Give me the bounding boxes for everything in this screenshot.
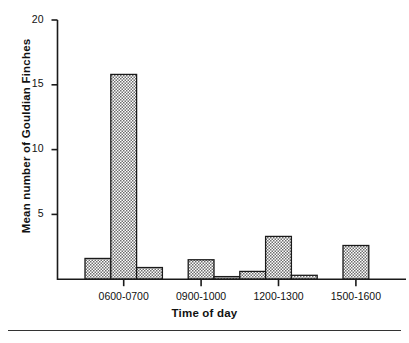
y-tick-label: 5 — [18, 207, 44, 219]
footer-rule — [8, 330, 401, 331]
bars-group — [85, 74, 369, 279]
x-tick-label: 1500-1600 — [331, 290, 381, 302]
axis-lines — [58, 20, 407, 280]
bar — [240, 271, 266, 279]
y-tick-label: 20 — [18, 13, 44, 25]
x-tick-label: 0900-1000 — [176, 290, 226, 302]
x-axis-title: Time of day — [0, 307, 409, 319]
x-tick-label: 0600-0700 — [99, 290, 149, 302]
x-axis-ticks — [124, 279, 356, 286]
bar — [85, 258, 111, 279]
y-tick-label: 10 — [18, 142, 44, 154]
y-axis-title: Mean number of Gouldian Finches — [20, 6, 32, 266]
chart-figure: Mean number of Gouldian Finches Time of … — [0, 0, 409, 343]
bar — [266, 236, 292, 279]
bar — [137, 268, 163, 280]
y-tick-label: 15 — [18, 77, 44, 89]
x-tick-label: 1200-1300 — [253, 290, 303, 302]
bar — [343, 246, 369, 280]
bar — [188, 260, 214, 279]
bar — [111, 74, 137, 279]
y-axis-ticks — [52, 20, 58, 214]
